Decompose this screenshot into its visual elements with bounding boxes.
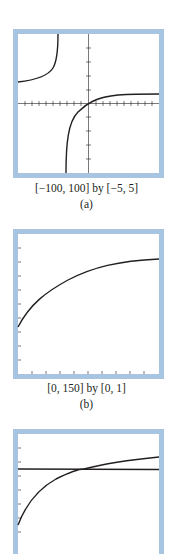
graph-c-plot (18, 434, 159, 554)
graph-b-frame (13, 229, 164, 379)
graph-a-left-branch (18, 34, 58, 82)
graph-a-window-label: [−100, 100] by [−5, 5] (0, 182, 173, 195)
graph-b-curve (18, 259, 159, 327)
graph-c-curve (18, 457, 159, 525)
graph-b-y-ticks (18, 248, 21, 360)
graph-b-window-label: [0, 150] by [0, 1] (0, 382, 173, 395)
graph-a-plot (18, 34, 159, 173)
graph-a-label: (a) (0, 198, 173, 211)
graph-b-x-ticks (32, 371, 144, 374)
graph-b-label: (b) (0, 398, 173, 411)
graph-c-frame (13, 429, 164, 554)
graph-b-plot (18, 234, 159, 374)
graph-c-horizontal-line (18, 469, 159, 470)
graph-a-frame (13, 29, 164, 178)
